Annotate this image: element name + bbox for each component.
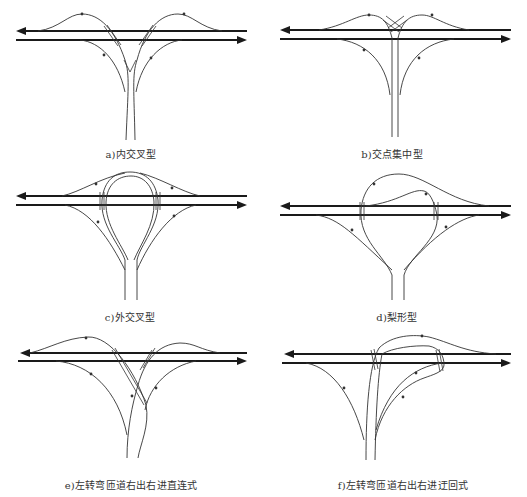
panel-b-concentrated: b)交点集中型 <box>264 0 527 165</box>
diagram-c <box>0 160 264 330</box>
arrow-right-icon <box>501 211 511 219</box>
panel-d-pear: d)梨形型 <box>264 160 527 330</box>
caption-b: b)交点集中型 <box>361 146 423 161</box>
arrow-left-icon <box>20 349 30 357</box>
arrow-right-icon <box>237 201 247 209</box>
caption-d: d)梨形型 <box>376 309 417 324</box>
arrow-right-icon <box>501 35 511 43</box>
panel-a-inner-crossing: a)内交叉型 <box>0 0 264 165</box>
arrow-left-icon <box>280 26 290 34</box>
panel-c-outer-crossing: c)外交叉型 <box>0 160 264 330</box>
caption-e: e)左转弯匝道右出右进直连式 <box>65 477 198 492</box>
panel-f-loop: f)左转弯匝道右出右进迂回式 <box>264 330 527 497</box>
arrow-right-icon <box>501 359 511 367</box>
diagram-b <box>264 0 527 165</box>
diagram-e <box>0 330 264 497</box>
caption-c: c)外交叉型 <box>105 309 156 324</box>
arrow-left-icon <box>280 202 290 210</box>
arrow-left-icon <box>16 27 26 35</box>
diagram-f <box>264 330 527 497</box>
panel-e-direct: e)左转弯匝道右出右进直连式 <box>0 330 264 497</box>
diagram-d <box>264 160 527 330</box>
arrow-right-icon <box>237 357 247 365</box>
caption-a: a)内交叉型 <box>105 146 156 161</box>
arrow-left-icon <box>284 350 294 358</box>
arrow-left-icon <box>16 192 26 200</box>
arrow-right-icon <box>237 36 247 44</box>
caption-f: f)左转弯匝道右出右进迂回式 <box>338 477 468 492</box>
diagram-a <box>0 0 264 165</box>
